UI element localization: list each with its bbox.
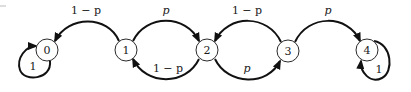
edge-1-to-2: [133, 21, 199, 41]
edge-label-2-to-3: p: [243, 62, 250, 75]
edge-label-1-to-2: p: [162, 4, 169, 17]
edge-label-3-to-2: 1 − p: [232, 4, 262, 17]
state-label-2: 2: [204, 44, 211, 57]
state-node-0: 0: [36, 39, 58, 61]
state-label-3: 3: [285, 45, 292, 58]
edge-label-0-self-loop: 1: [30, 60, 37, 73]
markov-chain-diagram: 1 − p p 1 − p 1 − p p p 1 1 0 1 2 3 4: [0, 0, 411, 92]
state-label-4: 4: [364, 44, 371, 57]
state-label-1: 1: [123, 44, 130, 57]
state-node-1: 1: [115, 39, 137, 61]
edge-1-to-0: [55, 22, 119, 42]
edge-label-2-to-1: 1 − p: [153, 62, 183, 75]
state-label-0: 0: [44, 44, 51, 57]
state-node-2: 2: [196, 39, 218, 61]
state-node-3: 3: [277, 40, 299, 62]
edge-3-to-4: [295, 21, 360, 42]
edge-label-4-self-loop: 1: [376, 63, 383, 76]
edge-label-1-to-0: 1 − p: [71, 4, 101, 17]
edge-3-to-2: [215, 21, 281, 42]
state-node-4: 4: [356, 39, 378, 61]
edge-label-3-to-4: p: [324, 4, 331, 17]
